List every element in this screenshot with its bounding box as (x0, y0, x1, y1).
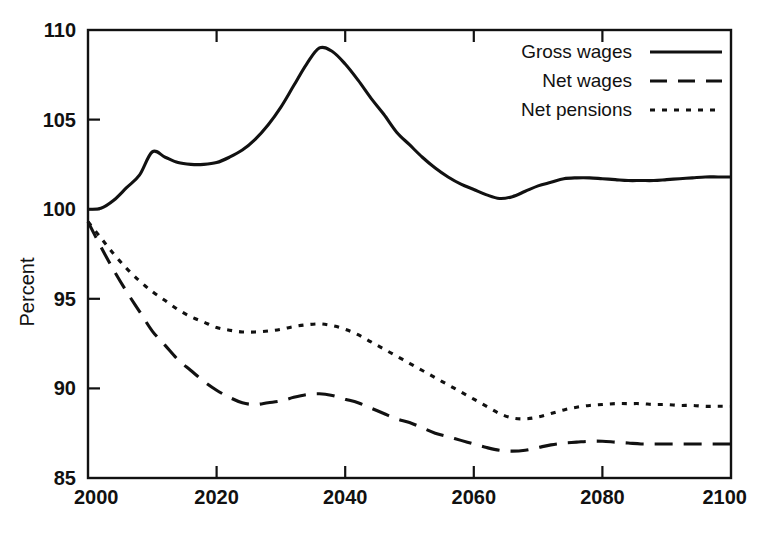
y-tick-label-110: 110 (44, 19, 76, 41)
y-tick-label-95: 95 (54, 288, 76, 310)
y-axis-ticks (88, 120, 100, 389)
data-series-group (88, 47, 731, 451)
plot-frame (88, 30, 731, 478)
x-tick-label-2040: 2040 (323, 486, 368, 508)
x-axis-tick-labels: 200020202040206020802100 (74, 486, 747, 508)
line-chart: 859095100105110 200020202040206020802100… (0, 0, 772, 533)
figure-container: 859095100105110 200020202040206020802100… (0, 0, 772, 533)
y-tick-label-85: 85 (54, 467, 76, 489)
x-tick-label-2000: 2000 (74, 486, 119, 508)
chart-legend: Gross wagesNet wagesNet pensions (521, 41, 722, 120)
legend-label-gross-wages: Gross wages (521, 41, 632, 62)
series-line-gross-wages (88, 47, 731, 209)
y-axis-title: Percent (16, 257, 38, 326)
y-tick-label-100: 100 (43, 198, 76, 220)
x-tick-label-2080: 2080 (580, 486, 625, 508)
x-tick-label-2100: 2100 (703, 486, 748, 508)
series-line-net-wages (88, 222, 731, 451)
y-tick-label-105: 105 (43, 109, 76, 131)
legend-label-net-pensions: Net pensions (521, 99, 632, 120)
x-tick-label-2020: 2020 (194, 486, 239, 508)
y-tick-label-90: 90 (54, 377, 76, 399)
series-line-net-pensions (88, 222, 731, 419)
legend-label-net-wages: Net wages (542, 70, 632, 91)
y-axis-tick-labels: 859095100105110 (43, 19, 76, 489)
x-axis-ticks (217, 30, 603, 478)
x-tick-label-2060: 2060 (452, 486, 497, 508)
